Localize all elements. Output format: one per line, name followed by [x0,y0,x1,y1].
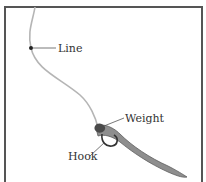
diagram-frame [5,7,202,182]
line-label: Line [58,42,82,55]
fishing-line [30,7,98,128]
weight-leader [104,118,124,126]
diagram-canvas: Line Weight Hook [0,0,206,182]
line-marker-dot [29,46,33,50]
fishing-rig-diagram: Line Weight Hook [0,0,206,182]
hook-label: Hook [68,150,98,163]
worm-icon [96,125,187,177]
weight-label: Weight [125,112,165,125]
